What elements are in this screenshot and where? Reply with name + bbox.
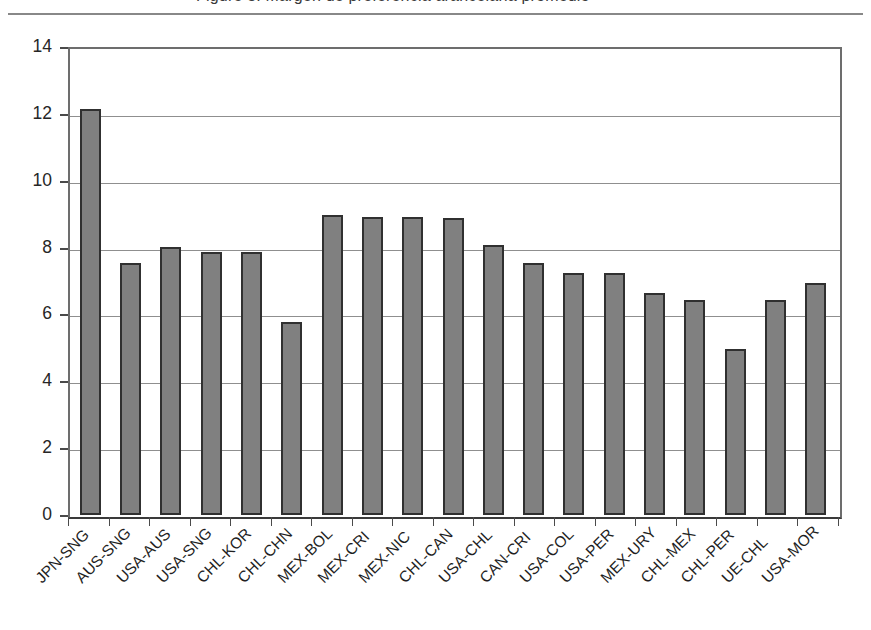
- bar: [281, 322, 302, 515]
- x-axis-tick: [109, 517, 110, 526]
- y-axis-tick: [60, 448, 68, 450]
- bar: [402, 217, 423, 515]
- bar: [725, 349, 746, 515]
- x-axis-tick: [716, 517, 717, 526]
- x-axis-tick: [271, 517, 272, 526]
- bar: [483, 245, 504, 515]
- x-axis-tick: [595, 517, 596, 526]
- bar: [563, 273, 584, 515]
- x-axis-tick: [311, 517, 312, 526]
- y-axis-tick-label: 8: [6, 237, 52, 258]
- y-axis-tick-label: 0: [6, 504, 52, 525]
- x-axis-tick: [68, 517, 69, 526]
- bar: [644, 293, 665, 515]
- x-axis-tick: [514, 517, 515, 526]
- y-axis-tick: [60, 515, 68, 517]
- bar: [201, 252, 222, 515]
- x-axis-tick-label: USA-MOR: [758, 522, 822, 586]
- x-axis-tick: [392, 517, 393, 526]
- x-axis-tick: [433, 517, 434, 526]
- bar: [604, 273, 625, 515]
- bar: [241, 252, 262, 515]
- bar: [765, 300, 786, 515]
- bar: [322, 215, 343, 515]
- x-axis-tick: [190, 517, 191, 526]
- x-axis-tick: [757, 517, 758, 526]
- bar: [362, 217, 383, 515]
- x-axis-tick: [149, 517, 150, 526]
- x-axis-tick: [676, 517, 677, 526]
- bar: [160, 247, 181, 515]
- figure-container: Figure 3. Margen de preferencia arancela…: [0, 0, 871, 630]
- bar: [523, 263, 544, 515]
- bar: [805, 283, 826, 515]
- y-axis-tick: [60, 381, 68, 383]
- x-axis-tick: [473, 517, 474, 526]
- y-axis-tick: [60, 181, 68, 183]
- x-axis-tick: [554, 517, 555, 526]
- bars-group: [70, 49, 836, 515]
- y-axis-tick: [60, 314, 68, 316]
- bar: [120, 263, 141, 515]
- x-axis-tick: [352, 517, 353, 526]
- x-axis-tick: [635, 517, 636, 526]
- y-axis-tick-label: 6: [6, 303, 52, 324]
- y-axis-tick-label: 2: [6, 437, 52, 458]
- x-axis-tick: [838, 517, 839, 526]
- x-axis-labels-group: JPN-SNGAUS-SNGUSA-AUSUSA-SNGCHL-KORCHL-C…: [0, 528, 871, 630]
- y-axis-tick: [60, 47, 68, 49]
- bar: [443, 218, 464, 515]
- bar: [80, 109, 101, 515]
- y-axis-tick: [60, 248, 68, 250]
- y-axis-tick: [60, 114, 68, 116]
- x-axis-tick: [230, 517, 231, 526]
- y-axis-tick-label: 10: [6, 170, 52, 191]
- y-axis-tick-label: 4: [6, 370, 52, 391]
- bar: [684, 300, 705, 515]
- y-axis-tick-label: 12: [6, 103, 52, 124]
- y-axis-tick-label: 14: [6, 36, 52, 57]
- x-axis-ticks-group: [68, 517, 838, 527]
- x-axis-tick: [797, 517, 798, 526]
